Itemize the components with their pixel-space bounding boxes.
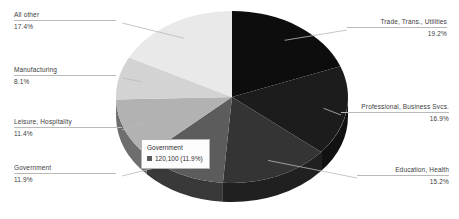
callout-professional-business-svcs: Professional, Business Svcs. 16.9% (341, 102, 449, 124)
callout-value-trade-trans-utilities: 19.2% (347, 28, 447, 38)
callout-label-trade-trans-utilities: Trade, Trans., Utilities (347, 17, 447, 27)
callout-label-all-other: All other (14, 10, 116, 20)
callout-value-leisure-hospitality: 11.4% (14, 128, 122, 138)
callout-value-all-other: 17.4% (14, 21, 116, 31)
callout-label-manufacturing: Manufacturing (14, 65, 116, 75)
tooltip-value-row: 120,100 (11.9%) (147, 154, 203, 164)
callout-all-other: All other 17.4% (14, 10, 116, 32)
chart-tooltip: Government 120,100 (11.9%) (141, 139, 210, 169)
tooltip-value: 120,100 (11.9%) (155, 154, 203, 164)
pie-chart-container: All other 17.4% Manufacturing 8.1% Leisu… (0, 0, 459, 219)
callout-education-health: Education, Health 15.2% (357, 165, 449, 187)
callout-trade-trans-utilities: Trade, Trans., Utilities 19.2% (347, 17, 447, 39)
callout-value-professional-business-svcs: 16.9% (341, 113, 449, 123)
callout-label-education-health: Education, Health (357, 165, 449, 175)
callout-manufacturing: Manufacturing 8.1% (14, 65, 116, 87)
callout-value-manufacturing: 8.1% (14, 76, 116, 86)
tooltip-color-swatch (147, 156, 152, 161)
tooltip-title: Government (147, 143, 203, 154)
callout-government: Government 11.9% (14, 163, 116, 185)
callout-label-government: Government (14, 163, 116, 173)
callout-value-education-health: 15.2% (357, 176, 449, 186)
callout-label-leisure-hospitality: Leisure, Hospitality (14, 117, 122, 127)
callout-label-professional-business-svcs: Professional, Business Svcs. (341, 102, 449, 112)
callout-leisure-hospitality: Leisure, Hospitality 11.4% (14, 117, 122, 139)
callout-value-government: 11.9% (14, 174, 116, 184)
